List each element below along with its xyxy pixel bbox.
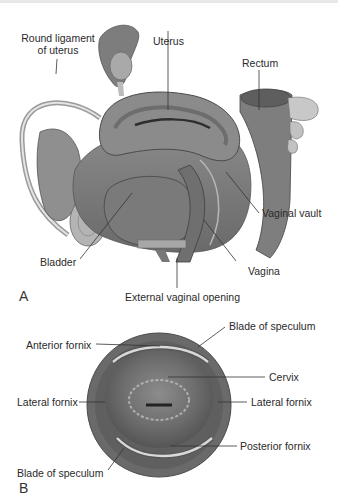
speculum-view [87,333,231,477]
label-round-ligament-line1: Round ligament [16,32,100,44]
anatomy-illustration [0,0,338,496]
panel-letter-b: B [19,480,28,496]
label-lateral-fornix-right: Lateral fornix [251,396,312,408]
label-rectum: Rectum [242,57,278,69]
label-bladder: Bladder [40,256,76,268]
label-blade-of-speculum-top: Blade of speculum [229,320,315,332]
label-anterior-fornix: Anterior fornix [26,339,91,351]
label-round-ligament: Round ligament of uterus [16,32,100,56]
label-uterus: Uterus [153,35,184,47]
label-blade-of-speculum-bottom: Blade of speculum [17,467,103,479]
label-cervix: Cervix [269,371,299,383]
panel-letter-a: A [19,288,28,304]
label-vagina: Vagina [248,265,280,277]
label-lateral-fornix-left: Lateral fornix [17,396,78,408]
label-external-vaginal-opening: External vaginal opening [125,291,240,303]
label-posterior-fornix: Posterior fornix [240,440,311,452]
label-vaginal-vault: Vaginal vault [262,207,321,219]
label-round-ligament-line2: of uterus [16,44,100,56]
